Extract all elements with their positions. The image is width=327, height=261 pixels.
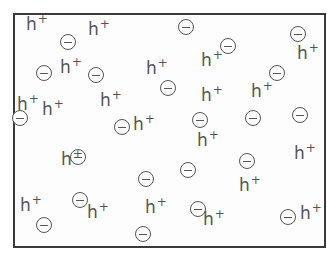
electron-minus-icon <box>239 153 255 169</box>
hole-label: h+ <box>145 199 167 218</box>
plus-charge: + <box>38 12 48 26</box>
plus-charge: + <box>213 83 223 97</box>
electron-minus-icon <box>138 171 154 187</box>
hole-label: h+ <box>20 197 42 216</box>
electron-minus-icon <box>192 112 208 128</box>
hole-label: h+ <box>203 211 225 230</box>
hole-letter: h <box>20 195 31 215</box>
hole-letter: h <box>87 202 98 222</box>
hole-label: h+ <box>201 87 223 106</box>
hole-letter: h <box>146 58 157 78</box>
hole-label: h+ <box>133 116 155 135</box>
electron-minus-icon <box>290 26 306 42</box>
hole-letter: h <box>201 50 212 70</box>
electron-minus-icon <box>114 119 130 135</box>
electron-minus-icon <box>178 19 194 35</box>
hole-letter: h <box>17 94 28 114</box>
hole-label: h+ <box>42 101 64 120</box>
hole-letter: h <box>100 90 111 110</box>
carrier-layer: h+h+h+h+h+h+h+h+h+h+h+h+h+h+h+h+h+h+h+h+… <box>0 0 327 261</box>
hole-letter: h <box>26 14 37 34</box>
hole-label: h+ <box>88 21 110 40</box>
plus-charge: + <box>158 56 168 70</box>
electron-minus-icon <box>36 65 52 81</box>
electron-minus-icon <box>245 110 261 126</box>
hole-letter: h <box>297 43 308 63</box>
electron-minus-icon <box>160 80 176 96</box>
hole-label: h+ <box>300 205 322 224</box>
hole-letter: h <box>203 209 214 229</box>
plus-charge: + <box>309 41 319 55</box>
plus-charge: + <box>263 79 273 93</box>
hole-letter: h <box>145 197 156 217</box>
plus-charge: + <box>157 195 167 209</box>
plus-charge: + <box>306 141 316 155</box>
hole-label: h+ <box>297 45 319 64</box>
plus-charge: + <box>54 97 64 111</box>
electron-minus-icon <box>72 192 88 208</box>
plus-charge: + <box>209 128 219 142</box>
hole-label: h+ <box>294 145 316 164</box>
hole-letter: h <box>239 175 250 195</box>
hole-label: h+ <box>197 132 219 151</box>
plus-charge: + <box>100 17 110 31</box>
hole-label: h+ <box>239 177 261 196</box>
plus-charge: + <box>32 193 42 207</box>
plus-charge: + <box>73 147 83 161</box>
hole-label: h+ <box>100 92 122 111</box>
plus-charge: + <box>215 207 225 221</box>
electron-minus-icon <box>180 162 196 178</box>
electron-minus-icon <box>60 34 76 50</box>
hole-letter: h <box>60 57 71 77</box>
plus-charge: + <box>29 92 39 106</box>
hole-letter: h <box>42 99 53 119</box>
electron-minus-icon <box>88 67 104 83</box>
hole-letter: h <box>133 114 144 134</box>
hole-label: h+ <box>201 52 223 71</box>
hole-letter: h <box>197 130 208 150</box>
plus-charge: + <box>312 201 322 215</box>
electron-minus-icon <box>36 217 52 233</box>
hole-letter: h <box>300 203 311 223</box>
hole-label: h+ <box>26 16 48 35</box>
plus-charge: + <box>99 200 109 214</box>
hole-label: h+ <box>146 60 168 79</box>
hole-letter: h <box>251 81 262 101</box>
hole-label: h+ <box>60 59 82 78</box>
hole-letter: h <box>201 85 212 105</box>
plus-charge: + <box>213 48 223 62</box>
hole-letter: h <box>88 19 99 39</box>
electron-minus-icon <box>135 226 151 242</box>
electron-minus-icon <box>280 209 296 225</box>
hole-letter: h <box>294 143 305 163</box>
electron-minus-icon <box>292 107 308 123</box>
plus-charge: + <box>251 173 261 187</box>
hole-letter: h <box>61 149 72 169</box>
plus-charge: + <box>72 55 82 69</box>
plus-charge: + <box>145 112 155 126</box>
hole-label: h+ <box>17 96 39 115</box>
hole-label: h+ <box>251 83 273 102</box>
hole-label: h+ <box>61 151 83 170</box>
plus-charge: + <box>112 88 122 102</box>
hole-label: h+ <box>87 204 109 223</box>
